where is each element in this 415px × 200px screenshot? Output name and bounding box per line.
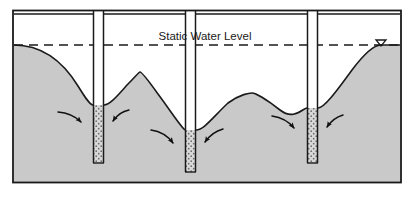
well-3-casing	[307, 8, 318, 108]
well-2-casing	[185, 8, 196, 130]
static-water-level-label: Static Water Level	[159, 30, 252, 42]
groundwater-drawdown-diagram: Static Water Level	[0, 0, 415, 200]
well-3	[307, 8, 318, 163]
well-1-casing	[93, 8, 104, 105]
well-1-screen	[93, 105, 104, 163]
well-1	[93, 8, 104, 163]
well-2-screen	[185, 130, 196, 172]
well-3-screen	[307, 108, 318, 163]
